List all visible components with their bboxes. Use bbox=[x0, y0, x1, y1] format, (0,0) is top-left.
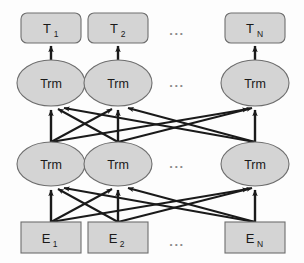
lower-transformer-label-n: Trm bbox=[244, 158, 266, 172]
input-embedding-label-1: E bbox=[42, 231, 51, 246]
lower-transformer-node-1[interactable]: Trm bbox=[17, 142, 85, 186]
rect-shape bbox=[21, 222, 81, 253]
lower-transformer-label-1: Trm bbox=[40, 158, 62, 172]
input-embedding-label-2: E bbox=[109, 231, 118, 246]
rect-shape bbox=[88, 222, 148, 253]
input-embedding-node-1[interactable]: E 1 bbox=[21, 222, 81, 253]
input-embedding-subscript-2: 2 bbox=[120, 239, 125, 249]
input-embedding-node-2[interactable]: E 2 bbox=[88, 222, 148, 253]
output-token-subscript-n: N bbox=[257, 29, 263, 39]
output-token-node-1[interactable]: T 1 bbox=[21, 13, 81, 43]
input-embedding-row: E 1 E 2 E N ... bbox=[21, 222, 285, 253]
rounded-rect-shape bbox=[88, 13, 148, 43]
upper-transformer-node-n[interactable]: Trm bbox=[221, 60, 289, 106]
input-embedding-node-n[interactable]: E N bbox=[225, 222, 285, 253]
ellipsis-input-embedding-row: ... bbox=[169, 234, 184, 249]
rounded-rect-shape bbox=[21, 13, 81, 43]
input-embedding-label-n: E bbox=[246, 231, 255, 246]
upper-transformer-node-2[interactable]: Trm bbox=[84, 60, 152, 106]
edge-e2-lower1 bbox=[58, 189, 118, 222]
bert-architecture-diagram: Trm Trm Trm ... Trm Trm bbox=[0, 0, 304, 263]
ellipsis-upper-transformer-row: ... bbox=[169, 75, 184, 90]
rounded-rect-shape bbox=[225, 13, 285, 43]
lower-transformer-label-2: Trm bbox=[107, 158, 129, 172]
output-token-subscript-2: 2 bbox=[121, 29, 126, 39]
output-token-row: T 1 T 2 T N ... bbox=[21, 13, 285, 43]
output-token-subscript-1: 1 bbox=[54, 29, 59, 39]
lower-transformer-node-n[interactable]: Trm bbox=[221, 142, 289, 186]
diagram-canvas: Trm Trm Trm ... Trm Trm bbox=[0, 0, 304, 263]
edges-upper-transformer-to-output bbox=[51, 46, 255, 60]
ellipsis-lower-transformer-row: ... bbox=[169, 156, 184, 171]
edges-lower-to-upper-transformer bbox=[51, 108, 255, 142]
lower-transformer-node-2[interactable]: Trm bbox=[84, 142, 152, 186]
upper-transformer-label-1: Trm bbox=[40, 77, 62, 91]
upper-transformer-label-n: Trm bbox=[244, 77, 266, 91]
ellipsis-output-token-row: ... bbox=[169, 23, 184, 38]
lower-transformer-row: Trm Trm Trm ... bbox=[17, 142, 289, 186]
upper-transformer-row: Trm Trm Trm ... bbox=[17, 60, 289, 106]
upper-transformer-node-1[interactable]: Trm bbox=[17, 60, 85, 106]
output-token-node-2[interactable]: T 2 bbox=[88, 13, 148, 43]
input-embedding-subscript-1: 1 bbox=[53, 239, 58, 249]
rect-shape bbox=[225, 222, 285, 253]
output-token-node-n[interactable]: T N bbox=[225, 13, 285, 43]
output-token-label-1: T bbox=[43, 21, 51, 36]
edge-lower2-upper1 bbox=[58, 109, 118, 142]
input-embedding-subscript-n: N bbox=[257, 239, 263, 249]
upper-transformer-label-2: Trm bbox=[107, 77, 129, 91]
output-token-label-n: T bbox=[246, 21, 254, 36]
edges-input-to-lower-transformer bbox=[51, 188, 255, 222]
output-token-label-2: T bbox=[110, 21, 118, 36]
